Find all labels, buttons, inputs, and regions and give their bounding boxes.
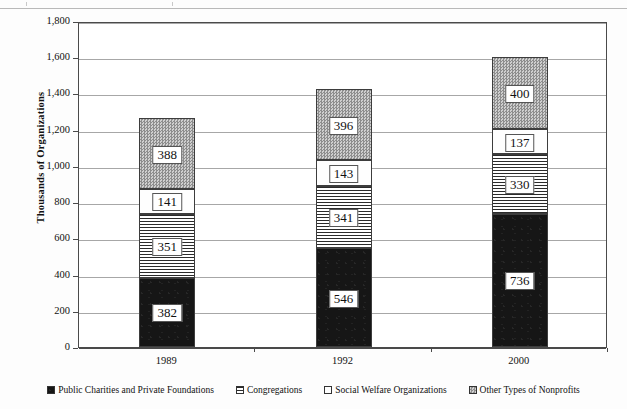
legend-item[interactable]: Congregations: [236, 385, 302, 395]
y-tick-label: 800: [18, 196, 70, 207]
bar-segment[interactable]: 400: [492, 57, 548, 129]
segment-value-label: 341: [329, 209, 359, 227]
x-tick-label: 2000: [479, 355, 559, 366]
bar-1992[interactable]: 546341143396: [316, 21, 372, 347]
y-tick-label: 0: [18, 341, 70, 352]
segment-value-label: 736: [505, 272, 535, 290]
legend-item[interactable]: Other Types of Nonprofits: [469, 385, 580, 395]
bar-2000[interactable]: 736330137400: [492, 21, 548, 347]
scan-speck: [172, 2, 173, 6]
segment-value-label: 382: [152, 304, 182, 322]
legend-item[interactable]: Social Welfare Organizations: [324, 385, 446, 395]
y-tick-label: 1,800: [18, 15, 70, 26]
bar-segment[interactable]: 351: [139, 214, 195, 278]
segment-value-label: 396: [329, 117, 359, 135]
y-tick-label: 400: [18, 269, 70, 280]
bar-segment[interactable]: 388: [139, 118, 195, 188]
legend-swatch-icon: [47, 386, 55, 394]
x-tick-mark: [607, 348, 608, 352]
x-tick-label: 1992: [303, 355, 383, 366]
legend-item-label: Public Charities and Private Foundations: [58, 385, 214, 395]
chart-page: Thousands of Organizations 1,8001,6001,4…: [0, 0, 627, 409]
y-tick-label: 1,200: [18, 124, 70, 135]
y-tick-label: 1,000: [18, 160, 70, 171]
x-tick-label: 1989: [126, 355, 206, 366]
segment-value-label: 330: [505, 176, 535, 194]
bar-segment[interactable]: 141: [139, 189, 195, 215]
bar-segment[interactable]: 143: [316, 160, 372, 186]
y-tick-label: 600: [18, 232, 70, 243]
y-tick-label: 1,400: [18, 87, 70, 98]
segment-value-label: 400: [505, 85, 535, 103]
legend-swatch-icon: [469, 386, 477, 394]
legend-swatch-icon: [236, 386, 244, 394]
segment-value-label: 351: [152, 238, 182, 256]
scan-speck: [26, 2, 27, 6]
legend-item-label: Congregations: [247, 385, 302, 395]
legend-item-label: Social Welfare Organizations: [335, 385, 446, 395]
segment-value-label: 143: [329, 165, 359, 183]
page-divider-rule: [0, 8, 627, 9]
legend-item-label: Other Types of Nonprofits: [480, 385, 580, 395]
segment-value-label: 141: [152, 193, 182, 211]
bar-segment[interactable]: 382: [139, 278, 195, 347]
plot-area: 382351141388546341143396736330137400: [78, 22, 607, 348]
segment-value-label: 137: [505, 134, 535, 152]
bar-segment[interactable]: 137: [492, 129, 548, 154]
segment-value-label: 546: [329, 290, 359, 308]
y-tick-label: 200: [18, 305, 70, 316]
y-tick-mark: [73, 348, 78, 349]
bar-segment[interactable]: 330: [492, 154, 548, 214]
bar-segment[interactable]: 396: [316, 89, 372, 161]
segment-value-label: 388: [152, 146, 182, 164]
y-tick-label: 1,600: [18, 51, 70, 62]
legend-item[interactable]: Public Charities and Private Foundations: [47, 385, 214, 395]
bar-1989[interactable]: 382351141388: [139, 21, 195, 347]
bar-segment[interactable]: 736: [492, 214, 548, 347]
legend-swatch-icon: [324, 386, 332, 394]
gridline: [79, 348, 606, 349]
x-tick-mark: [254, 348, 255, 352]
chart-legend: Public Charities and Private Foundations…: [0, 385, 627, 395]
x-tick-mark: [431, 348, 432, 352]
bar-segment[interactable]: 341: [316, 186, 372, 248]
bar-segment[interactable]: 546: [316, 248, 372, 347]
